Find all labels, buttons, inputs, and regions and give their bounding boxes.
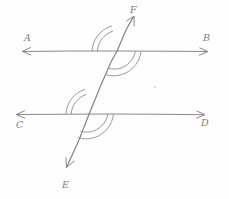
label-e: E [61, 179, 69, 190]
angle-arc-upper-left-inner [97, 31, 112, 51]
angle-arc-lower-upper-left-inner [71, 95, 86, 114]
figure-canvas: A B C D E F [0, 0, 229, 199]
label-a: A [23, 32, 31, 43]
line-cd-segment [17, 114, 205, 115]
geometry-diagram: A B C D E F [0, 0, 229, 199]
label-b: B [202, 32, 210, 43]
label-d: D [200, 117, 209, 128]
line-ef [66, 16, 134, 167]
angle-arc-lower-lower-right-outer [78, 115, 113, 139]
angle-arc-lower-lower-right-inner [81, 115, 108, 133]
line-cd [16, 111, 205, 119]
angle-arc-lower-right-outer [106, 52, 141, 76]
line-ef-segment [67, 17, 134, 168]
line-ab-segment [23, 51, 208, 52]
label-f: F [129, 4, 137, 15]
paper-speck [154, 86, 156, 88]
label-c: C [16, 119, 24, 130]
